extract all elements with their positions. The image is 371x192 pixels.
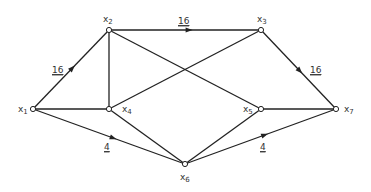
edges-layer [33, 27, 336, 164]
node-x6 [182, 161, 187, 166]
arrowhead-icon [109, 134, 116, 139]
edge-weight-label: 16 [178, 16, 190, 26]
network-diagram: 16416164x1x2x3x4x5x6x7 [0, 0, 371, 192]
edge-weight-label: 4 [104, 142, 110, 152]
node-x3 [258, 27, 263, 32]
node-x4 [106, 106, 111, 111]
node-label-x3: x3 [257, 14, 267, 26]
edge-x4-x6 [109, 109, 185, 164]
edge-x5-x6 [185, 109, 261, 164]
edge-weight-label: 4 [260, 142, 266, 152]
node-label-x2: x2 [103, 14, 113, 26]
nodes-layer [30, 27, 338, 166]
node-x2 [106, 27, 111, 32]
node-label-x1: x1 [18, 104, 28, 116]
node-x1 [30, 106, 35, 111]
arrowhead-icon [261, 134, 268, 139]
node-x5 [258, 106, 263, 111]
edge-weight-label: 16 [52, 65, 64, 75]
node-label-x5: x5 [243, 104, 253, 116]
arrowhead-icon [186, 27, 193, 32]
edge-x1-x6 [33, 109, 185, 164]
labels-layer: 16416164x1x2x3x4x5x6x7 [18, 14, 354, 184]
node-x7 [333, 106, 338, 111]
node-label-x4: x4 [122, 104, 132, 116]
node-label-x6: x6 [180, 172, 190, 184]
edge-weight-label: 16 [310, 65, 322, 75]
node-label-x7: x7 [344, 104, 354, 116]
edge-x6-x7 [185, 109, 336, 164]
